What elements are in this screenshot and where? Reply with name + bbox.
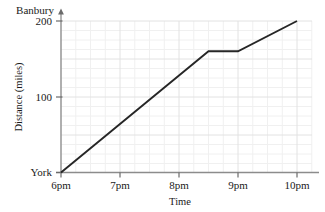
y-tick-label-100: 100 <box>36 91 53 103</box>
chart-canvas: 200 100 York Banbury Distance (miles) 6p… <box>0 0 325 212</box>
x-axis-title: Time <box>169 196 191 207</box>
x-tick-label-6pm: 6pm <box>51 179 71 191</box>
x-tick-label-9pm: 9pm <box>228 179 248 191</box>
y-top-label-banbury: Banbury <box>16 4 54 16</box>
y-origin-label-york: York <box>30 166 52 178</box>
distance-time-chart: 200 100 York Banbury Distance (miles) 6p… <box>0 0 325 212</box>
x-tick-label-7pm: 7pm <box>110 179 130 191</box>
x-tick-label-10pm: 10pm <box>284 179 310 191</box>
y-axis-title: Distance (miles) <box>13 62 25 132</box>
x-tick-label-8pm: 8pm <box>169 179 189 191</box>
y-tick-label-200: 200 <box>36 15 53 27</box>
